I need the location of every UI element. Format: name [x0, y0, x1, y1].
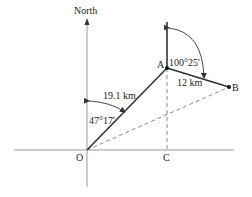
label-a: A [157, 59, 165, 70]
angle-o-label: 47°17' [89, 115, 115, 126]
angle-arc-o [89, 101, 125, 112]
bearing-diagram: North O A B C 19.1 km 12 km 47°17' 100°2… [0, 0, 252, 197]
length-oa-label: 19.1 km [103, 90, 136, 101]
length-ab-label: 12 km [177, 77, 203, 88]
north-label: North [74, 5, 97, 16]
label-c: C [163, 152, 170, 163]
point-b [227, 85, 231, 89]
segment-oa [87, 68, 167, 150]
label-b: B [232, 82, 239, 93]
north-arrow-icon [85, 18, 90, 25]
angle-a-label: 100°25' [169, 57, 200, 68]
label-o: O [76, 152, 83, 163]
